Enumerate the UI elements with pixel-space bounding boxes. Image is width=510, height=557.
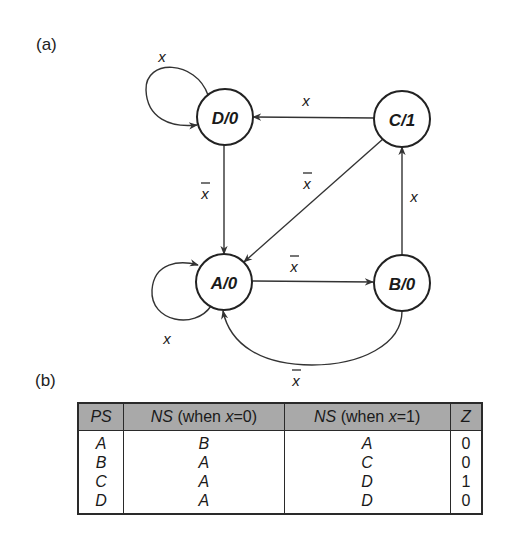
edge-c-to-a: [244, 139, 383, 262]
table-row: B A C 0: [78, 453, 482, 472]
cell-z: 0: [450, 431, 482, 454]
svg-text:x: x: [200, 185, 209, 202]
header-ns-x1: NS (when x=1): [284, 403, 450, 431]
header-ns-x0: NS (when x=0): [124, 403, 284, 431]
cell-ps: A: [78, 431, 124, 454]
svg-text:C/1: C/1: [389, 111, 415, 130]
header-ps: PS: [78, 403, 124, 431]
cell-ns0: A: [124, 453, 284, 472]
state-node-a: A/0: [196, 254, 252, 310]
state-table: PS NS (when x=0) NS (when x=1) Z A B A 0…: [77, 402, 483, 515]
label-b-to-a: x: [291, 370, 301, 389]
svg-text:B/0: B/0: [389, 275, 416, 294]
state-node-b: B/0: [374, 255, 430, 311]
svg-text:A/0: A/0: [210, 274, 238, 293]
cell-z: 0: [450, 491, 482, 514]
label-c-to-a: x: [302, 173, 312, 192]
panel-label-b: (b): [35, 371, 56, 391]
cell-z: 0: [450, 453, 482, 472]
state-diagram: D/0 C/1 A/0 B/0 x x x x x x x x: [0, 0, 510, 400]
label-c-to-d: x: [301, 92, 310, 109]
edge-a-to-b: [252, 281, 373, 282]
label-a-to-b: x: [289, 256, 299, 275]
cell-ns0: A: [124, 472, 284, 491]
cell-z: 1: [450, 472, 482, 491]
svg-text:x: x: [291, 372, 300, 389]
cell-ns0: A: [124, 491, 284, 514]
label-d-to-a: x: [200, 183, 210, 202]
label-a-self: x: [162, 330, 171, 347]
header-z: Z: [450, 403, 482, 431]
cell-ns0: B: [124, 431, 284, 454]
cell-ns1: A: [284, 431, 450, 454]
cell-ps: C: [78, 472, 124, 491]
svg-text:D/0: D/0: [212, 109, 239, 128]
svg-text:x: x: [302, 175, 311, 192]
cell-ns1: D: [284, 472, 450, 491]
cell-ps: B: [78, 453, 124, 472]
label-d-self: x: [157, 48, 166, 65]
table-row: C A D 1: [78, 472, 482, 491]
cell-ns1: D: [284, 491, 450, 514]
state-node-c: C/1: [374, 91, 430, 147]
table-row: D A D 0: [78, 491, 482, 514]
table-header-row: PS NS (when x=0) NS (when x=1) Z: [78, 403, 482, 431]
cell-ps: D: [78, 491, 124, 514]
table-row: A B A 0: [78, 431, 482, 454]
edge-b-to-a: [223, 311, 402, 365]
edge-c-to-d: [253, 117, 375, 118]
svg-text:x: x: [289, 258, 298, 275]
state-node-d: D/0: [197, 89, 253, 145]
label-b-to-c: x: [409, 188, 418, 205]
cell-ns1: C: [284, 453, 450, 472]
